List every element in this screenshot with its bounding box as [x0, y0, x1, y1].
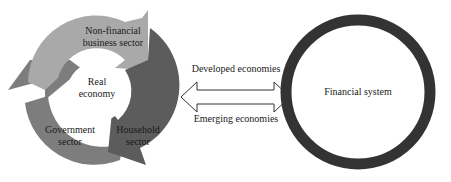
sector-label-line: Household — [110, 124, 166, 136]
center-label-line: Real — [72, 76, 122, 88]
sector-label-line: sector — [110, 136, 166, 148]
sector-label-line: business sector — [58, 37, 168, 49]
sector-label-line: Non-financial — [58, 25, 168, 37]
financial-system-label: Financial system — [308, 86, 408, 98]
sector-label-line: sector — [38, 136, 102, 148]
sector-label-line: Government — [38, 124, 102, 136]
government-sector-label: Government sector — [38, 124, 102, 148]
double-arrow-icon — [181, 82, 290, 112]
real-economy-label: Real economy — [72, 76, 122, 100]
non-financial-sector-label: Non-financial business sector — [58, 25, 168, 49]
developed-economies-label: Developed economies — [178, 63, 294, 75]
emerging-economies-label: Emerging economies — [178, 113, 294, 125]
household-sector-label: Household sector — [110, 124, 166, 148]
center-label-line: economy — [72, 88, 122, 100]
